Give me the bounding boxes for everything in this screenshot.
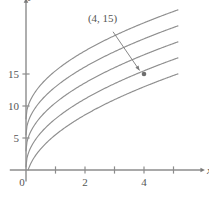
x-tick-label-0: 0	[19, 176, 25, 188]
y-tick-label-10: 10	[8, 100, 20, 112]
x-tick-label-2: 2	[82, 176, 88, 188]
x-axis-label: x	[206, 164, 209, 176]
curve-family	[26, 10, 178, 170]
curve-5	[28, 74, 178, 170]
graph-figure: 024 51015 (4, 15) x y	[0, 0, 209, 201]
y-tick-label-15: 15	[8, 68, 20, 80]
y-axis-arrowhead	[24, 0, 29, 3]
x-axis-tick-labels: 024	[19, 176, 147, 188]
y-tick-label-5: 5	[14, 132, 20, 144]
annotation-label-point-4-15: (4, 15)	[88, 12, 118, 25]
annotation-arrowhead-point-4-15	[135, 66, 139, 71]
coordinate-plot: 024 51015 (4, 15) x y	[0, 0, 209, 201]
curve-1	[26, 10, 178, 119]
x-tick-label-4: 4	[141, 176, 147, 188]
annotation-point-point-4-15	[142, 72, 147, 77]
x-axis-arrowhead	[200, 168, 205, 173]
y-axis-label: y	[28, 0, 34, 1]
y-axis-tick-labels: 51015	[8, 68, 20, 144]
